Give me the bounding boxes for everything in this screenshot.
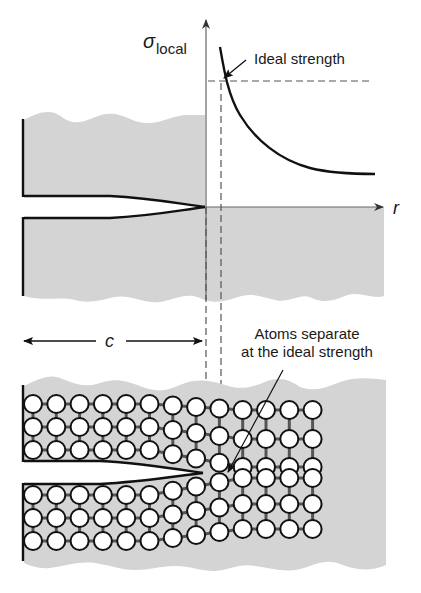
atom — [94, 509, 112, 527]
atom — [187, 398, 205, 416]
atom — [71, 395, 89, 413]
atom — [257, 495, 275, 513]
atom — [187, 478, 205, 496]
atom — [164, 397, 182, 415]
atoms-separate-label-line1: Atoms separate — [254, 325, 359, 342]
atom — [24, 418, 42, 436]
crack-length-dimension: c — [24, 331, 202, 351]
atom — [141, 441, 159, 459]
lower-material-region — [24, 207, 384, 302]
atom — [71, 418, 89, 436]
lower-atomic-panel — [23, 370, 386, 571]
crack-tip-diagram: σ local Ideal strength r c Atoms separat… — [0, 0, 421, 593]
atom — [210, 523, 228, 541]
atom — [210, 400, 228, 418]
atom — [164, 482, 182, 500]
atom — [24, 441, 42, 459]
atom — [117, 395, 135, 413]
atom — [187, 502, 205, 520]
atom — [164, 421, 182, 439]
atom — [47, 395, 65, 413]
atom — [304, 469, 322, 487]
atom — [234, 401, 252, 419]
atom — [94, 418, 112, 436]
atom — [94, 441, 112, 459]
atom — [141, 509, 159, 527]
atom — [210, 454, 228, 472]
atom — [47, 532, 65, 550]
atom — [24, 509, 42, 527]
atom — [257, 430, 275, 448]
upper-material-region — [24, 112, 205, 207]
atoms-separate-label-line2: at the ideal strength — [241, 343, 373, 360]
atom — [94, 486, 112, 504]
atom — [47, 486, 65, 504]
atom — [210, 427, 228, 445]
atom — [304, 520, 322, 538]
stress-axis-subscript: local — [156, 40, 187, 57]
atom — [24, 486, 42, 504]
atom — [24, 532, 42, 550]
atom — [24, 395, 42, 413]
atom — [117, 486, 135, 504]
atom — [94, 532, 112, 550]
ideal-strength-label: Ideal strength — [254, 50, 345, 67]
atom — [304, 401, 322, 419]
atom — [71, 532, 89, 550]
atom — [94, 395, 112, 413]
atom — [304, 430, 322, 448]
stress-axis-label: σ — [143, 30, 156, 52]
atom — [210, 473, 228, 491]
atom — [141, 486, 159, 504]
atom — [234, 495, 252, 513]
atom — [257, 469, 275, 487]
atom — [257, 520, 275, 538]
atom — [304, 495, 322, 513]
atom — [187, 450, 205, 468]
atom — [117, 509, 135, 527]
ideal-strength-pointer-arrow — [224, 60, 246, 78]
atom — [280, 469, 298, 487]
atom — [71, 441, 89, 459]
atom — [47, 418, 65, 436]
atom — [141, 418, 159, 436]
atom — [117, 532, 135, 550]
atom — [164, 506, 182, 524]
atom — [234, 520, 252, 538]
atom — [117, 418, 135, 436]
atom — [71, 509, 89, 527]
upper-continuum-panel: σ local Ideal strength r — [23, 20, 400, 302]
atom — [47, 441, 65, 459]
atom — [234, 469, 252, 487]
atom — [141, 395, 159, 413]
atom — [187, 526, 205, 544]
c-label: c — [105, 331, 114, 351]
atom — [280, 495, 298, 513]
atom — [164, 529, 182, 547]
atom — [71, 486, 89, 504]
atom — [141, 532, 159, 550]
atom — [210, 499, 228, 517]
atom — [117, 441, 135, 459]
atom — [47, 509, 65, 527]
atom — [257, 401, 275, 419]
atom — [187, 424, 205, 442]
atom — [280, 401, 298, 419]
atom — [280, 520, 298, 538]
atom — [280, 430, 298, 448]
r-axis-label: r — [393, 198, 400, 218]
atom — [164, 445, 182, 463]
